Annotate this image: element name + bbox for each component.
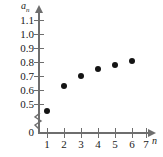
data-point [95,66,101,72]
y-tick-mark [34,20,44,21]
y-tick-mark [34,90,44,91]
data-point [61,83,67,89]
x-tick-label: 5 [108,139,122,150]
y-tick-mark [34,34,44,35]
x-tick-label: 1 [40,139,54,150]
y-tick-label: 0.6 [0,85,34,96]
x-tick-label: 6 [125,139,139,150]
x-tick-mark [47,128,48,138]
axis-break-icon [32,113,46,129]
x-tick-mark [146,128,147,138]
y-tick-label: 0 [0,127,34,138]
y-axis-label-subscript: n [26,6,30,14]
y-tick-label: 1.0 [0,29,34,40]
y-tick-mark [34,76,44,77]
data-point [112,62,118,68]
y-tick-label: 0.9 [0,43,34,54]
x-tick-label: 7 [139,139,153,150]
x-tick-label: 2 [57,139,71,150]
y-axis-arrow-icon [35,5,43,13]
y-tick-mark [34,104,44,105]
data-point [78,73,84,79]
y-tick-label: 0.8 [0,57,34,68]
y-axis-label: an [21,1,30,14]
x-tick-mark [132,128,133,138]
data-point [44,108,50,114]
x-tick-mark [81,128,82,138]
y-tick-mark [34,48,44,49]
x-tick-label: 4 [91,139,105,150]
y-tick-label: 1.1 [0,15,34,26]
x-tick-mark [115,128,116,138]
x-tick-mark [64,128,65,138]
scatter-plot-figure: an n 1.1 1.0 0.9 0.8 0.7 0.6 0.5 0 1 2 3… [0,0,163,157]
y-tick-label: 0.5 [0,99,34,110]
y-tick-label: 0.7 [0,71,34,82]
y-tick-mark [34,62,44,63]
x-tick-label: 3 [74,139,88,150]
data-point [129,58,135,64]
x-tick-mark [98,128,99,138]
